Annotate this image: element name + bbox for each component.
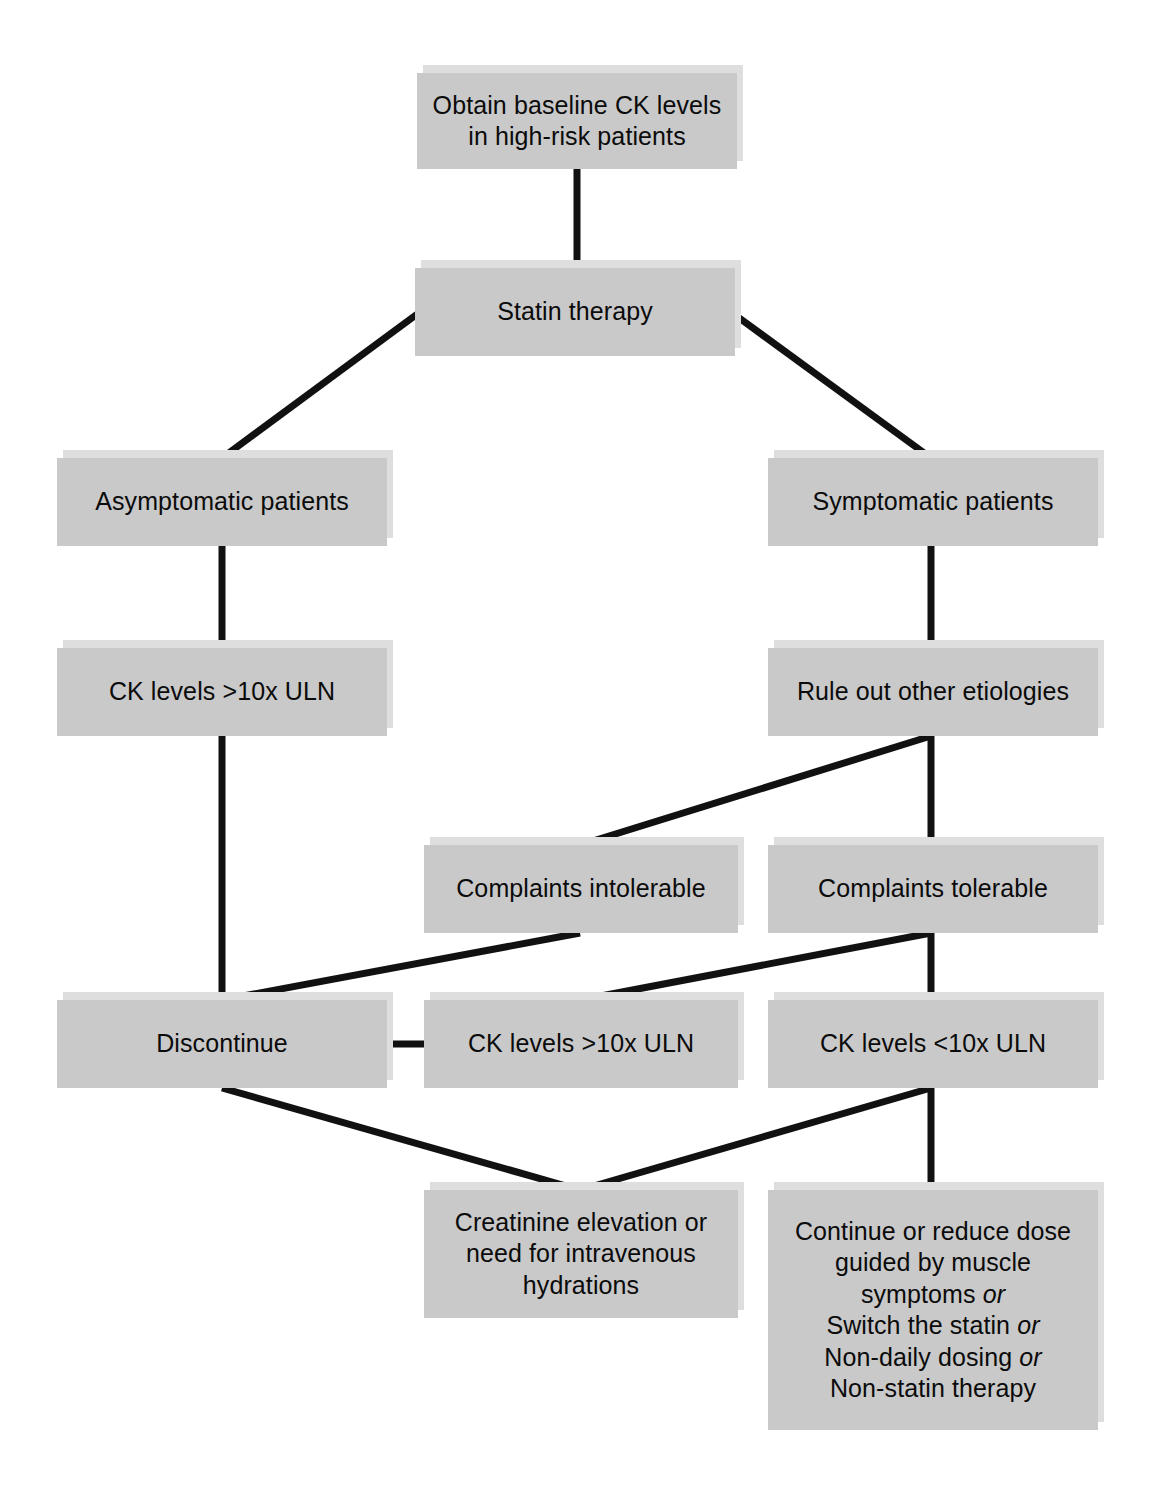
node-asymptomatic-patients[interactable]: Asymptomatic patients: [57, 458, 387, 546]
node-label-multiline: Continue or reduce doseguided by muscles…: [787, 1216, 1079, 1405]
edge-discontinue-to-creatinine: [222, 1088, 580, 1190]
node-body: Statin therapy: [415, 268, 735, 356]
node-body: Continue or reduce doseguided by muscles…: [768, 1190, 1098, 1430]
node-label: Obtain baseline CK levels in high-risk p…: [425, 90, 730, 153]
node-label: CK levels >10x ULN: [101, 676, 343, 708]
node-creatinine-elevation[interactable]: Creatinine elevation or need for intrave…: [424, 1190, 738, 1318]
node-ck-levels-high-mid[interactable]: CK levels >10x ULN: [424, 1000, 738, 1088]
node-body: Discontinue: [57, 1000, 387, 1088]
node-body: Asymptomatic patients: [57, 458, 387, 546]
node-obtain-baseline-ck[interactable]: Obtain baseline CK levels in high-risk p…: [417, 73, 737, 169]
edge-ck-low-right-to-creatinine: [580, 1088, 931, 1190]
flowchart-canvas: Obtain baseline CK levels in high-risk p…: [0, 0, 1154, 1502]
node-statin-therapy[interactable]: Statin therapy: [415, 268, 735, 356]
node-complaints-intolerable[interactable]: Complaints intolerable: [424, 845, 738, 933]
node-symptomatic-patients[interactable]: Symptomatic patients: [768, 458, 1098, 546]
node-label: Asymptomatic patients: [87, 486, 357, 518]
node-ck-levels-high-left[interactable]: CK levels >10x ULN: [57, 648, 387, 736]
node-body: Obtain baseline CK levels in high-risk p…: [417, 73, 737, 169]
node-body: Symptomatic patients: [768, 458, 1098, 546]
node-continue-or-reduce-dose[interactable]: Continue or reduce doseguided by muscles…: [768, 1190, 1098, 1430]
node-body: CK levels <10x ULN: [768, 1000, 1098, 1088]
node-body: Rule out other etiologies: [768, 648, 1098, 736]
node-body: Complaints intolerable: [424, 845, 738, 933]
node-complaints-tolerable[interactable]: Complaints tolerable: [768, 845, 1098, 933]
node-body: Creatinine elevation or need for intrave…: [424, 1190, 738, 1318]
node-rule-out-other-etiologies[interactable]: Rule out other etiologies: [768, 648, 1098, 736]
edge-complaints-intolerable-to-discontinue: [222, 933, 580, 1000]
node-label: Complaints tolerable: [810, 873, 1056, 905]
node-label: CK levels <10x ULN: [812, 1028, 1054, 1060]
edge-complaints-tolerable-to-ck-high-mid: [580, 933, 931, 1000]
edge-rule-out-to-complaints-intolerable: [580, 736, 931, 845]
node-label: Symptomatic patients: [805, 486, 1062, 518]
edge-statin-to-symptomatic: [731, 312, 931, 458]
node-body: CK levels >10x ULN: [424, 1000, 738, 1088]
node-label: Statin therapy: [489, 296, 661, 328]
node-discontinue[interactable]: Discontinue: [57, 1000, 387, 1088]
node-label: Discontinue: [148, 1028, 296, 1060]
node-label: Rule out other etiologies: [789, 676, 1077, 708]
node-ck-levels-low-right[interactable]: CK levels <10x ULN: [768, 1000, 1098, 1088]
node-label: Complaints intolerable: [448, 873, 714, 905]
node-body: Complaints tolerable: [768, 845, 1098, 933]
node-label: Creatinine elevation or need for intrave…: [447, 1207, 715, 1302]
node-label: CK levels >10x ULN: [460, 1028, 702, 1060]
node-body: CK levels >10x ULN: [57, 648, 387, 736]
edge-statin-to-asymptomatic: [222, 312, 420, 458]
